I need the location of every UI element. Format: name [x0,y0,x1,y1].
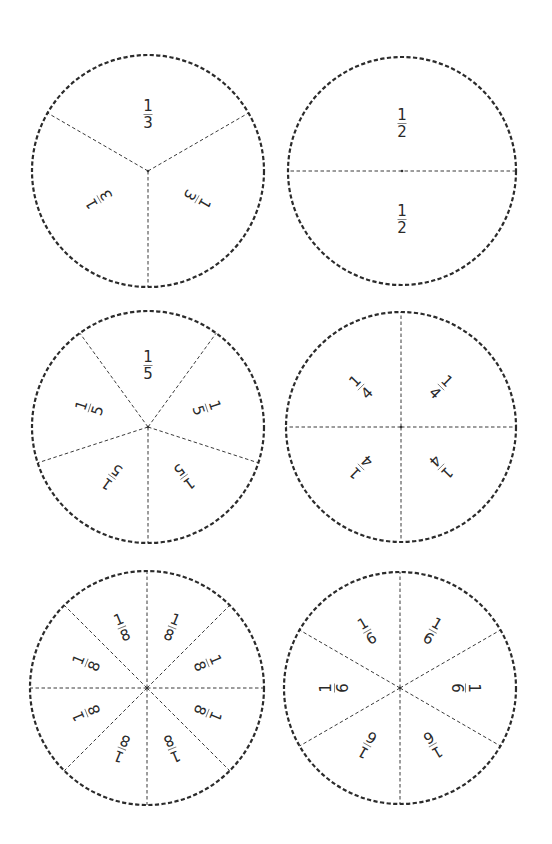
fraction-denominator: 2 [397,219,407,237]
fraction-denominator: 6 [420,628,437,648]
center-point [401,170,404,173]
fraction-circle-thirds: 131313 [32,55,264,287]
divider-line [400,688,500,746]
fraction-label: 14 [345,451,376,482]
fraction-denominator: 5 [108,460,126,480]
fraction-denominator: 6 [420,727,437,747]
fraction-numerator: 1 [317,683,335,693]
fraction-label: 16 [420,727,446,762]
fraction-circle-fifths: 1515151515 [32,311,264,543]
fraction-label: 13 [81,186,116,212]
fraction-denominator: 6 [334,683,352,693]
fraction-denominator: 4 [357,451,376,470]
center-point [147,426,150,429]
fraction-label: 12 [397,202,407,237]
fraction-denominator: 5 [143,365,153,383]
fraction-label: 14 [345,371,376,402]
divider-line [300,630,400,688]
fraction-numerator: 1 [397,106,407,124]
fraction-label: 18 [68,652,104,674]
fraction-label: 18 [190,702,226,724]
fraction-label: 15 [71,398,107,418]
fraction-denominator: 4 [425,451,444,470]
fraction-denominator: 8 [161,731,177,751]
fraction-denominator: 6 [363,727,380,747]
fraction-numerator: 1 [143,97,153,115]
fraction-label: 15 [98,460,126,494]
fraction-circle-halves: 1212 [288,57,516,285]
fraction-circle-quarters: 14141414 [286,312,516,542]
fraction-denominator: 2 [397,123,407,141]
center-point [147,170,150,173]
divider-line [300,688,400,746]
fraction-denominator: 8 [190,658,210,674]
divider-line [48,113,148,171]
divider-line [64,688,147,771]
divider-line [64,605,147,688]
fraction-label: 16 [448,683,483,693]
fraction-denominator: 8 [117,625,133,645]
divider-line [38,427,148,463]
fraction-label: 15 [188,398,224,418]
center-point [399,687,402,690]
fraction-label: 16 [354,614,380,649]
fraction-label: 16 [420,614,446,649]
fraction-label: 16 [317,683,352,693]
fraction-label: 13 [143,97,153,132]
fraction-circles-sheet: 1313131212151515151514141414181818181818… [0,0,552,844]
fraction-label: 18 [161,731,183,767]
fraction-label: 18 [111,609,133,645]
fraction-label: 12 [397,106,407,141]
fraction-numerator: 1 [143,348,153,366]
fraction-denominator: 5 [170,460,188,480]
center-point [146,687,149,690]
fraction-denominator: 8 [161,625,177,645]
fraction-circles-canvas: 1313131212151515151514141414181818181818… [0,0,552,844]
fraction-circle-sixths: 161616161616 [284,572,516,804]
fraction-label: 14 [425,371,456,402]
divider-line [148,427,258,463]
fraction-denominator: 3 [179,186,199,203]
fraction-denominator: 8 [84,702,104,718]
fraction-denominator: 8 [84,658,104,674]
center-point [400,426,403,429]
fraction-denominator: 5 [88,403,108,418]
fraction-label: 15 [143,348,153,383]
fraction-denominator: 3 [96,186,116,203]
divider-line [148,113,248,171]
fraction-denominator: 8 [117,731,133,751]
fraction-denominator: 6 [448,683,466,693]
fraction-circle-eighths: 1818181818181818 [30,571,264,805]
fraction-numerator: 1 [397,202,407,220]
fraction-label: 18 [68,702,104,724]
fraction-denominator: 6 [363,628,380,648]
fraction-denominator: 5 [188,403,208,418]
fraction-label: 18 [190,652,226,674]
fraction-label: 18 [111,731,133,767]
fraction-label: 15 [170,460,198,494]
fraction-denominator: 4 [425,383,444,402]
divider-line [400,630,500,688]
fraction-label: 13 [179,186,214,212]
fraction-denominator: 8 [190,702,210,718]
divider-line [147,605,230,688]
fraction-numerator: 1 [465,683,483,693]
divider-line [147,688,230,771]
fraction-denominator: 3 [143,114,153,132]
fraction-label: 16 [354,727,380,762]
fraction-label: 18 [161,609,183,645]
fraction-denominator: 4 [357,383,376,402]
fraction-label: 14 [425,451,456,482]
